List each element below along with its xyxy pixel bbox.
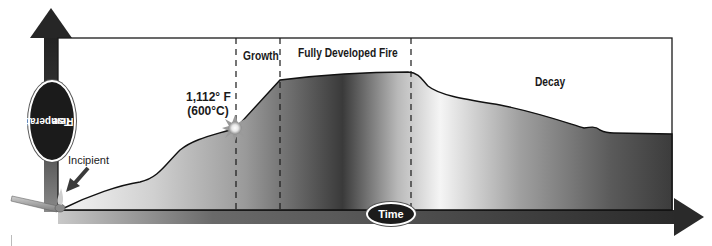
flashover-temperature-annotation: 1,112° F (600°C) bbox=[186, 90, 230, 118]
temp-fahrenheit: 1,112° F bbox=[186, 90, 230, 104]
phase-label-decay: Decay bbox=[535, 75, 565, 89]
time-label: Time bbox=[366, 202, 416, 226]
phase-label-growth: Growth bbox=[243, 49, 279, 63]
temp-celsius: (600°C) bbox=[186, 104, 230, 118]
y-axis-label-line2: Rise bbox=[33, 116, 93, 127]
temperature-rise-label: Temperature Rise bbox=[28, 80, 76, 162]
fire-curve-graphic bbox=[0, 0, 712, 246]
x-axis-label: Time bbox=[378, 208, 403, 220]
caption-divider bbox=[11, 235, 12, 246]
phase-label-fully-developed: Fully Developed Fire bbox=[298, 46, 398, 60]
fire-development-diagram: Temperature Rise Time Incipient Growth F… bbox=[0, 0, 712, 246]
phase-label-incipient: Incipient bbox=[68, 154, 109, 166]
